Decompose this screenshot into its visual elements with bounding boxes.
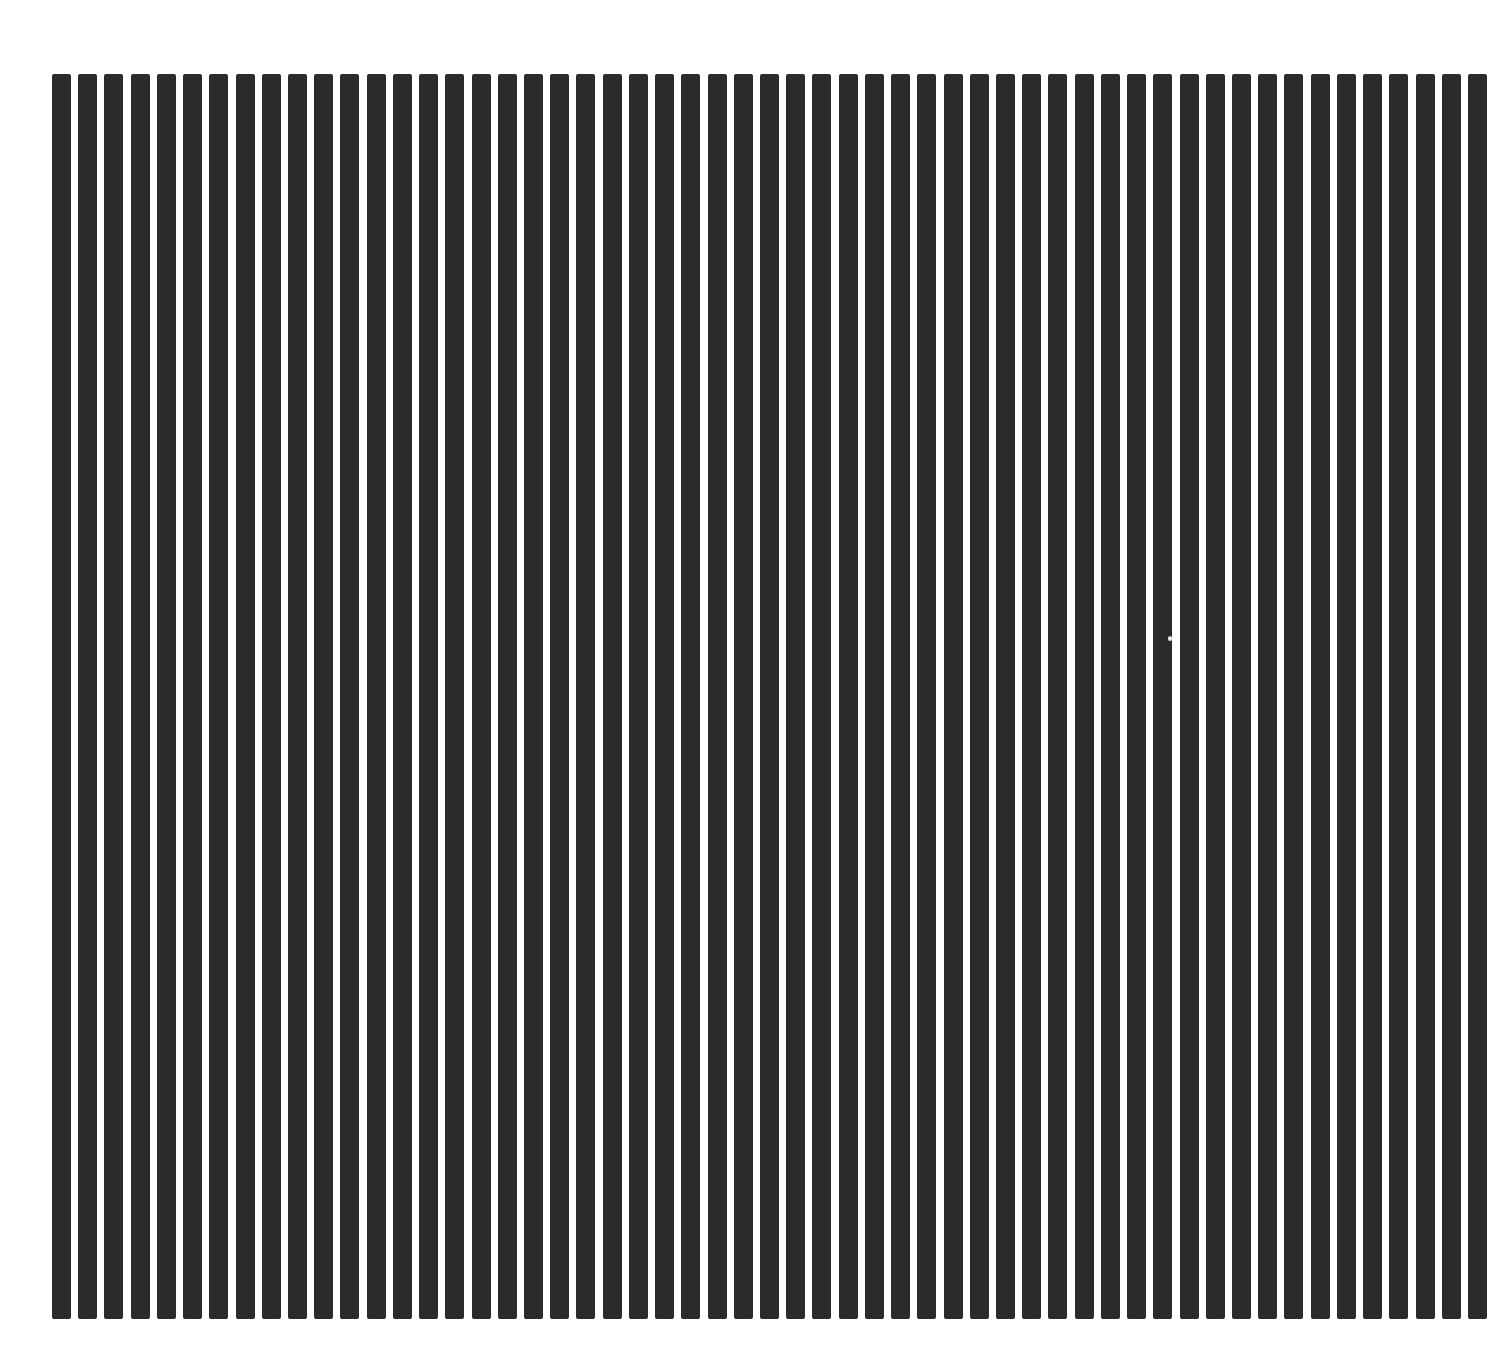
grating-bar — [498, 74, 517, 1319]
grating-bar — [314, 74, 333, 1319]
grating-bar — [576, 74, 595, 1319]
grating-bar — [839, 74, 858, 1319]
grating-bar — [865, 74, 884, 1319]
grating-bar — [1101, 74, 1120, 1319]
grating-bar — [1284, 74, 1303, 1319]
grating-bar — [1075, 74, 1094, 1319]
grating-bar — [78, 74, 97, 1319]
grating-bar — [1311, 74, 1330, 1319]
grating-bar — [603, 74, 622, 1319]
grating-bar — [104, 74, 123, 1319]
grating-bar — [367, 74, 386, 1319]
grating-bar — [1048, 74, 1067, 1319]
grating-bar — [708, 74, 727, 1319]
grating-bar — [393, 74, 412, 1319]
grating-bar — [1180, 74, 1199, 1319]
grating-bar — [288, 74, 307, 1319]
grating-bar — [786, 74, 805, 1319]
grating-bar — [1258, 74, 1277, 1319]
grating-bar — [1416, 74, 1435, 1319]
grating-bar — [472, 74, 491, 1319]
grating-bar — [1232, 74, 1251, 1319]
grating-bar — [996, 74, 1015, 1319]
grating-bar — [183, 74, 202, 1319]
grating-bar — [1468, 74, 1487, 1319]
grating-bar — [970, 74, 989, 1319]
grating-bar — [812, 74, 831, 1319]
grating-bar — [52, 74, 71, 1319]
grating-bar — [550, 74, 569, 1319]
grating-bar — [445, 74, 464, 1319]
grating-bar — [262, 74, 281, 1319]
grating-bar — [236, 74, 255, 1319]
grating-bar — [917, 74, 936, 1319]
grating-bar — [1153, 74, 1172, 1319]
grating-bar — [681, 74, 700, 1319]
grating-bar — [734, 74, 753, 1319]
grating-bar — [524, 74, 543, 1319]
grating-bar — [1337, 74, 1356, 1319]
grating-bar — [1127, 74, 1146, 1319]
grating-bar — [1022, 74, 1041, 1319]
grating-bar — [131, 74, 150, 1319]
grating-bar — [419, 74, 438, 1319]
grating-bar — [944, 74, 963, 1319]
grating-bar — [629, 74, 648, 1319]
scan-speck — [1168, 636, 1172, 641]
grating-bar — [891, 74, 910, 1319]
grating-bar — [760, 74, 779, 1319]
grating-bar — [1206, 74, 1225, 1319]
grating-bar — [157, 74, 176, 1319]
grating-bar — [655, 74, 674, 1319]
grating-bar — [209, 74, 228, 1319]
grating-bar — [1363, 74, 1382, 1319]
grating-bar — [340, 74, 359, 1319]
bar-grating — [0, 0, 1501, 1359]
grating-bar — [1389, 74, 1408, 1319]
grating-bar — [1442, 74, 1461, 1319]
